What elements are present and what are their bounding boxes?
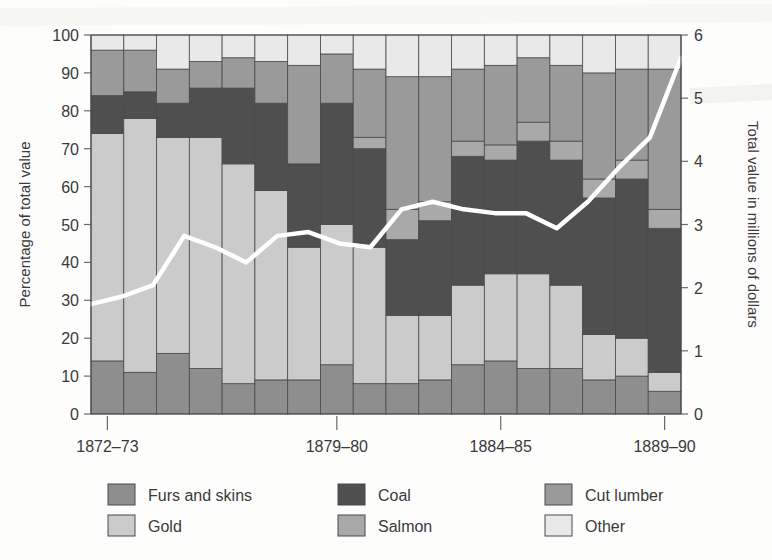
bar-segment [91, 134, 124, 361]
bar-segment [124, 35, 157, 50]
legend-item[interactable]: Cut lumber [545, 484, 664, 505]
bar-segment [255, 35, 288, 62]
legend-label: Gold [148, 518, 182, 535]
bar-segment [517, 35, 550, 58]
bar-segment [517, 58, 550, 122]
bar-segment [452, 69, 485, 141]
y-axis-tick-label-right: 5 [694, 90, 703, 107]
bar-column [288, 35, 321, 414]
y-axis-tick-label-right: 4 [694, 153, 703, 170]
bar-segment [222, 58, 255, 88]
legend-label: Coal [378, 487, 411, 504]
bar-segment [419, 315, 452, 379]
bar-segment [648, 209, 681, 228]
bar-segment [157, 137, 190, 353]
bar-segment [615, 35, 648, 69]
x-axis-tick-label: 1879–80 [306, 438, 368, 455]
y-axis-tick-label-right: 6 [694, 27, 703, 44]
y-axis-title-left: Percentage of total value [16, 142, 33, 308]
y-axis-tick-label-right: 3 [694, 217, 703, 234]
bar-segment [550, 65, 583, 141]
bar-column [320, 35, 353, 414]
bar-segment [550, 285, 583, 368]
bar-segment [583, 73, 616, 179]
y-axis-title-right: Total value in millions of dollars [745, 121, 762, 328]
bar-segment [189, 137, 222, 368]
bar-segment [648, 372, 681, 391]
bar-segment [583, 35, 616, 73]
legend-item[interactable]: Furs and skins [108, 484, 252, 505]
bar-segment [157, 69, 190, 103]
bar-column [648, 35, 681, 414]
bar-segment [550, 141, 583, 160]
bar-segment [484, 160, 517, 274]
bar-segment [320, 35, 353, 54]
y-axis-tick-label-left: 100 [52, 27, 79, 44]
bar-segment [353, 247, 386, 383]
legend-item[interactable]: Salmon [338, 515, 432, 536]
legend-label: Salmon [378, 518, 432, 535]
bar-segment [517, 369, 550, 414]
bar-segment [452, 141, 485, 156]
bar-segment [550, 35, 583, 65]
bar-segment [648, 69, 681, 209]
bar-segment [452, 156, 485, 285]
bar-segment [288, 247, 321, 380]
bar-segment [255, 190, 288, 380]
bar-segment [255, 103, 288, 190]
bar-segment [648, 391, 681, 414]
y-axis-tick-label-right: 2 [694, 280, 703, 297]
bar-segment [386, 240, 419, 316]
bar-segment [386, 35, 419, 77]
y-axis-tick-label-left: 60 [61, 179, 79, 196]
y-axis-tick-label-left: 90 [61, 65, 79, 82]
bar-column [353, 35, 386, 414]
bar-column [550, 35, 583, 414]
legend-swatch [545, 484, 572, 505]
bar-segment [583, 334, 616, 379]
bar-segment [157, 103, 190, 137]
bar-column [452, 35, 485, 414]
bar-column [583, 35, 616, 414]
bar-column [484, 35, 517, 414]
bar-segment [484, 361, 517, 414]
bar-segment [320, 365, 353, 414]
bar-segment [517, 122, 550, 141]
bar-segment [648, 228, 681, 372]
bar-segment [353, 35, 386, 69]
y-axis-tick-label-left: 50 [61, 217, 79, 234]
legend-swatch [338, 515, 365, 536]
y-axis-tick-label-left: 10 [61, 368, 79, 385]
bar-segment [157, 35, 190, 69]
bar-segment [189, 35, 222, 62]
bar-segment [419, 35, 452, 77]
bar-segment [386, 384, 419, 414]
bar-segment [124, 118, 157, 372]
bar-segment [615, 160, 648, 179]
bar-segment [353, 137, 386, 148]
bar-segment [484, 274, 517, 361]
legend-swatch [108, 484, 135, 505]
y-axis-tick-label-left: 70 [61, 141, 79, 158]
bar-segment [255, 62, 288, 104]
stacked-bar-line-chart: 010203040506070809010001234561872–731879… [0, 0, 772, 560]
legend-item[interactable]: Other [545, 515, 626, 536]
bar-segment [124, 50, 157, 92]
bar-segment [189, 369, 222, 414]
bar-column [255, 35, 288, 414]
bar-segment [386, 315, 419, 383]
bar-segment [517, 141, 550, 274]
bar-segment [615, 338, 648, 376]
bar-segment [550, 369, 583, 414]
bar-column [91, 35, 124, 414]
bar-segment [124, 92, 157, 119]
chart-container: 010203040506070809010001234561872–731879… [0, 0, 772, 560]
bar-segment [189, 62, 222, 89]
bar-column [124, 35, 157, 414]
bar-segment [615, 376, 648, 414]
bar-segment [189, 88, 222, 137]
legend-swatch [338, 484, 365, 505]
y-axis-tick-label-left: 80 [61, 103, 79, 120]
bar-column [189, 35, 222, 414]
bar-segment [320, 103, 353, 224]
